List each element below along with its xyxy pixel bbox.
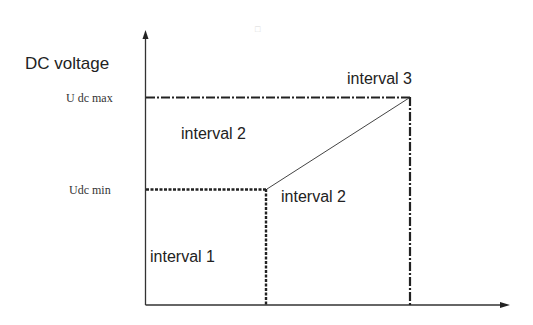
- y-axis-arrow-icon: [143, 30, 149, 39]
- voltage-interval-diagram: □ DC voltage U dc max Udc min interval 1…: [0, 0, 533, 325]
- interval-1-label: interval 1: [150, 248, 215, 265]
- udc-max-label: U dc max: [66, 91, 113, 105]
- artifact-mark: □: [255, 24, 261, 34]
- interval-2-lower-label: interval 2: [281, 188, 346, 205]
- udc-min-label: Udc min: [69, 183, 111, 197]
- interval-3-label: interval 3: [347, 70, 412, 87]
- x-axis-arrow-icon: [500, 302, 510, 308]
- interval-2-upper-label: interval 2: [181, 125, 246, 142]
- transition-diagonal: [267, 98, 409, 189]
- y-axis-label: DC voltage: [25, 54, 109, 73]
